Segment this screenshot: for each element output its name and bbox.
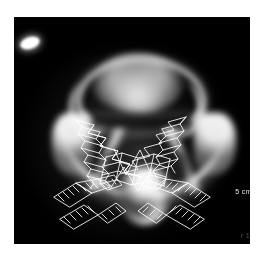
scale-label: 5 cm: [235, 188, 250, 195]
wireframe-mesh-overlay: [14, 17, 250, 244]
mesh-screw-right-upper: [142, 175, 210, 207]
mesh-screw-left-upper: [54, 175, 122, 207]
mesh-center-band: [100, 149, 170, 191]
scan-figure: 5 cm r 1: [0, 0, 269, 262]
scan-canvas: 5 cm r 1: [14, 17, 250, 244]
corner-mark: r 1: [241, 231, 250, 240]
mesh-lamina-left: [76, 120, 142, 189]
